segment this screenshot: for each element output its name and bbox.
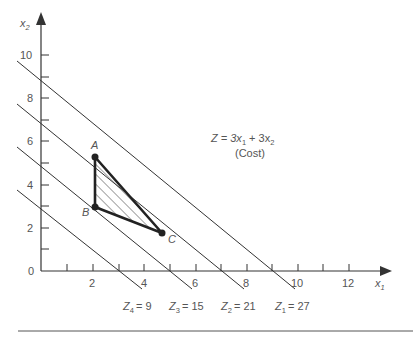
feasible-region <box>95 157 162 233</box>
iso-line-z1 <box>17 61 295 289</box>
y-tick-label: 6 <box>27 135 33 147</box>
x-tick-label: 12 <box>342 277 354 289</box>
x-axis-arrow-icon <box>380 266 392 276</box>
x-tick-label: 8 <box>243 277 249 289</box>
vertex-b-dot <box>92 204 99 211</box>
lp-diagram: 0 2 4 6 8 10 12 2 4 6 8 10 x2 x1 A B C Z… <box>0 0 413 338</box>
vertex-c-dot <box>159 230 166 237</box>
vertex-a-label: A <box>90 139 98 151</box>
origin-label: 0 <box>28 265 34 277</box>
z2-label: Z2= 21 <box>220 300 256 315</box>
objective-equation: Z = 3x1 + 3x2 <box>210 132 274 147</box>
y-tick-label: 4 <box>27 179 33 191</box>
vertex-b-label: B <box>82 206 89 218</box>
x-axis-label: x1 <box>374 277 385 292</box>
y-tick-label: 2 <box>27 222 33 234</box>
vertex-c-label: C <box>168 233 176 245</box>
z1-label: Z1= 27 <box>274 300 310 315</box>
y-axis-label: x2 <box>19 17 31 32</box>
objective-note: (Cost) <box>235 147 265 159</box>
x-ticks <box>67 264 349 271</box>
vertex-a-dot <box>92 154 99 161</box>
x-tick-label: 6 <box>192 277 198 289</box>
x-tick-label: 2 <box>89 277 95 289</box>
y-tick-label: 8 <box>27 92 33 104</box>
y-tick-label: 10 <box>20 49 32 61</box>
z4-label: Z4= 9 <box>122 300 152 315</box>
x-tick-label: 4 <box>141 277 147 289</box>
y-axis-arrow-icon <box>36 12 46 25</box>
z3-label: Z3= 15 <box>168 300 204 315</box>
iso-cost-lines <box>17 61 295 289</box>
